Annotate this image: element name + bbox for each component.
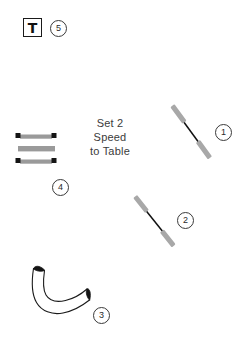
- tool-t-glyph: T: [28, 20, 38, 34]
- part-curved-hose: [32, 266, 90, 313]
- callout-3: 3: [93, 307, 110, 324]
- callout-4-label: 4: [58, 183, 63, 192]
- callout-5-label: 5: [56, 24, 61, 33]
- part-rod-lower: [133, 195, 175, 247]
- rod-upper-ferrule-bottom: [196, 140, 212, 160]
- callout-1: 1: [215, 124, 232, 141]
- part-rod-upper: [170, 104, 212, 159]
- hose-inner-wall: [43, 271, 87, 302]
- parts-artwork: [0, 0, 245, 342]
- rod-upper-shaft: [181, 118, 200, 144]
- annotation-text: Set 2 Speed to Table: [78, 116, 142, 158]
- annotation-line-2: Speed: [78, 130, 142, 144]
- rod-lower-ferrule-top: [133, 195, 149, 213]
- bar-top-cap-left: [16, 133, 21, 138]
- callout-2-label: 2: [183, 216, 188, 225]
- diagram-canvas: T Set 2 Speed to Table 5 1 2 3 4: [0, 0, 245, 342]
- tool-t-icon: T: [23, 18, 42, 37]
- bar-bottom-cap-right: [52, 158, 57, 163]
- callout-3-label: 3: [99, 311, 104, 320]
- bar-top: [20, 135, 52, 139]
- rod-upper-ferrule-top: [170, 104, 186, 124]
- hose-opening-top: [33, 266, 44, 271]
- bar-middle: [18, 146, 55, 151]
- callout-5: 5: [50, 20, 67, 37]
- rod-lower-shaft: [144, 208, 164, 233]
- annotation-line-3: to Table: [78, 144, 142, 158]
- bar-bottom: [20, 160, 52, 164]
- hose-opening-right: [86, 289, 90, 300]
- callout-4: 4: [52, 179, 69, 196]
- annotation-line-1: Set 2: [78, 116, 142, 130]
- callout-1-label: 1: [221, 128, 226, 137]
- part-bar-stack: [16, 133, 57, 164]
- hose-outer-wall: [32, 269, 89, 314]
- rod-lower-ferrule-bottom: [160, 229, 176, 247]
- bar-bottom-cap-left: [16, 158, 21, 163]
- callout-2: 2: [177, 212, 194, 229]
- bar-top-cap-right: [52, 133, 57, 138]
